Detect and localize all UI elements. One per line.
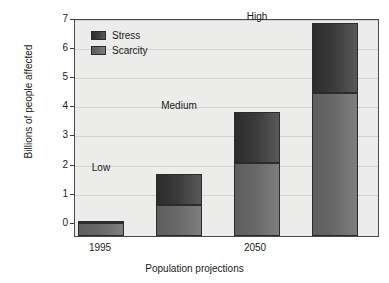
chart-legend: Stress Scarcity — [91, 29, 148, 59]
plot-area: Low Medium High Stress Scarcity — [74, 19, 379, 237]
legend-item-stress[interactable]: Stress — [91, 29, 148, 42]
x-axis-title: Population projections — [0, 263, 389, 274]
bar-medium[interactable] — [234, 112, 280, 236]
y-tick-label-1: 1 — [46, 189, 68, 199]
y-tick-label-0: 0 — [46, 218, 68, 228]
bar-label-low: Low — [61, 162, 141, 173]
bar-label-high: High — [217, 11, 297, 22]
bar-segment-scarcity — [156, 205, 202, 236]
y-tick-label-3: 3 — [46, 130, 68, 140]
scarcity-swatch-icon — [91, 46, 106, 55]
y-tick-label-7: 7 — [46, 14, 68, 24]
bar-segment-stress — [78, 221, 124, 223]
x-tick-label-2050: 2050 — [215, 242, 295, 253]
bar-segment-stress — [156, 174, 202, 205]
y-axis-title: Billions of people affected — [23, 22, 34, 182]
y-tick-label-6: 6 — [46, 43, 68, 53]
x-tick-label-1995: 1995 — [60, 242, 140, 253]
bar-high[interactable] — [312, 23, 358, 236]
bar-segment-stress — [312, 23, 358, 93]
y-tick-label-4: 4 — [46, 101, 68, 111]
bar-low[interactable] — [156, 174, 202, 236]
chart-figure: Billions of people affected 7 6 5 4 3 2 … — [0, 0, 389, 283]
bar-segment-scarcity — [234, 163, 280, 236]
stress-swatch-icon — [91, 31, 106, 40]
bar-label-medium: Medium — [139, 100, 219, 111]
bar-1995[interactable] — [78, 221, 124, 236]
bar-segment-scarcity — [312, 93, 358, 236]
bar-segment-stress — [234, 112, 280, 163]
legend-item-scarcity[interactable]: Scarcity — [91, 44, 148, 57]
y-tick-label-5: 5 — [46, 72, 68, 82]
legend-label-stress: Stress — [112, 30, 140, 41]
legend-label-scarcity: Scarcity — [112, 45, 148, 56]
bar-segment-scarcity — [78, 223, 124, 236]
